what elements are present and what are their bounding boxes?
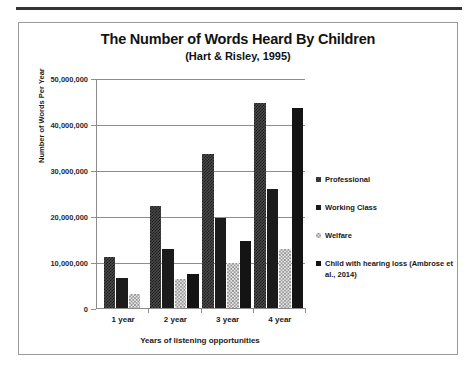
x-axis-category-label: 4 year: [268, 315, 291, 324]
plot-area: 010,000,00020,000,00030,000,00040,000,00…: [96, 79, 305, 309]
legend-label: Welfare: [325, 231, 352, 241]
y-axis-tick: [91, 263, 96, 264]
legend-swatch-icon: [316, 233, 321, 238]
legend-swatch-icon: [316, 261, 321, 266]
y-axis-tick: [91, 79, 96, 80]
x-axis-tick: [201, 308, 202, 313]
legend-item: Professional: [316, 175, 454, 185]
bar-group: 3 year: [202, 79, 254, 308]
y-axis-tick: [91, 309, 96, 310]
legend-item: Welfare: [316, 231, 454, 241]
bar: [129, 294, 141, 308]
top-horizontal-rule: [16, 7, 462, 10]
legend-swatch-icon: [316, 205, 321, 210]
bar: [215, 218, 227, 308]
legend-swatch-icon: [316, 177, 321, 182]
bar: [116, 278, 128, 308]
chart-subtitle: (Hart & Risley, 1995): [19, 50, 457, 62]
bar: [267, 189, 279, 308]
y-axis-tick: [91, 171, 96, 172]
bar: [104, 257, 116, 308]
bar: [187, 274, 199, 308]
bar-group: 4 year: [254, 79, 306, 308]
y-axis-title: Number of Words Per Year: [37, 68, 46, 163]
y-axis-tick-label: 50,000,000: [50, 75, 88, 84]
y-axis-tick-label: 0: [84, 305, 88, 314]
bar: [240, 241, 252, 308]
y-axis-tick-label: 20,000,000: [50, 213, 88, 222]
x-axis-category-label: 1 year: [112, 315, 135, 324]
bar-group: 1 year: [97, 79, 149, 308]
bar: [162, 249, 174, 308]
bar: [202, 154, 214, 308]
chart-title: The Number of Words Heard By Children: [19, 31, 457, 47]
x-axis-tick: [148, 308, 149, 313]
chart-frame: The Number of Words Heard By Children (H…: [18, 22, 458, 355]
x-axis-tick: [305, 308, 306, 313]
bar: [279, 249, 291, 308]
x-axis-category-label: 2 year: [164, 315, 187, 324]
bar: [227, 263, 239, 308]
x-axis-tick: [253, 308, 254, 313]
y-axis-tick-label: 30,000,000: [50, 167, 88, 176]
chart-legend: ProfessionalWorking ClassWelfareChild wi…: [316, 175, 454, 298]
legend-item: Working Class: [316, 203, 454, 213]
y-axis-tick-label: 10,000,000: [50, 259, 88, 268]
x-axis-category-label: 3 year: [216, 315, 239, 324]
bar: [292, 108, 304, 308]
x-axis-title: Years of listening opportunities: [96, 336, 304, 345]
bar: [254, 103, 266, 308]
legend-label: Working Class: [325, 203, 377, 213]
y-axis-tick-label: 40,000,000: [50, 121, 88, 130]
legend-label: Professional: [325, 175, 370, 185]
bar-group: 2 year: [149, 79, 201, 308]
bar: [150, 206, 162, 308]
legend-item: Child with hearing loss (Ambrose et al.,…: [316, 259, 454, 279]
y-axis-tick: [91, 217, 96, 218]
legend-label: Child with hearing loss (Ambrose et al.,…: [325, 259, 454, 279]
bar: [175, 279, 187, 308]
y-axis-tick: [91, 125, 96, 126]
